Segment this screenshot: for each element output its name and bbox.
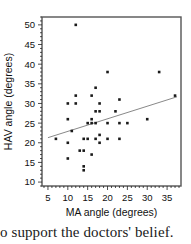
x-axis-tick-label: 10 — [63, 192, 74, 203]
data-point — [94, 110, 97, 113]
y-axis-tick-label: 45 — [24, 39, 35, 50]
data-point — [82, 149, 85, 152]
data-point — [86, 138, 89, 141]
y-axis-tick-label: 10 — [24, 176, 35, 187]
data-point — [94, 138, 97, 141]
data-point — [174, 94, 177, 97]
data-point — [74, 94, 77, 97]
x-axis-tick-label: 35 — [162, 192, 173, 203]
data-point — [90, 153, 93, 156]
y-axis-title: HAV angle (degrees) — [2, 53, 14, 150]
data-point — [118, 122, 121, 125]
data-point — [158, 71, 161, 74]
data-point — [90, 122, 93, 125]
data-point — [90, 118, 93, 121]
data-point — [67, 118, 70, 121]
data-point — [55, 138, 58, 141]
data-point — [82, 165, 85, 168]
x-axis-tick-label: 20 — [102, 192, 113, 203]
data-point — [74, 102, 77, 105]
data-point — [106, 138, 109, 141]
data-point — [82, 138, 85, 141]
data-point — [67, 102, 70, 105]
data-point — [94, 86, 97, 89]
data-point — [98, 141, 101, 144]
data-point — [106, 71, 109, 74]
data-point — [82, 169, 85, 172]
plot-frame — [42, 17, 181, 186]
x-axis-tick-label: 30 — [142, 192, 153, 203]
data-point — [94, 122, 97, 125]
scatter-plot-figure: 5101520253035101520253035404550MA angle … — [0, 0, 191, 244]
data-point — [90, 94, 93, 97]
data-point — [118, 98, 121, 101]
data-point — [67, 157, 70, 160]
data-point — [70, 130, 73, 133]
y-axis-tick-label: 30 — [24, 98, 35, 109]
chart-canvas: 5101520253035101520253035404550MA angle … — [0, 0, 191, 244]
y-axis-tick-label: 35 — [24, 78, 35, 89]
y-axis-tick-label: 15 — [24, 157, 35, 168]
y-axis-tick-label: 25 — [24, 118, 35, 129]
data-point — [126, 122, 129, 125]
data-point — [74, 24, 77, 27]
data-point — [98, 110, 101, 113]
data-point — [118, 138, 121, 141]
x-axis-tick-label: 15 — [82, 192, 93, 203]
data-point — [98, 102, 101, 105]
y-axis-tick-label: 40 — [24, 59, 35, 70]
data-point — [114, 110, 117, 113]
y-axis-tick-label: 20 — [24, 137, 35, 148]
x-axis-title: MA angle (degrees) — [66, 206, 158, 218]
y-axis-tick-label: 50 — [24, 19, 35, 30]
data-point — [106, 122, 109, 125]
x-axis-tick-label: 25 — [122, 192, 133, 203]
data-point — [67, 141, 70, 144]
data-point — [146, 118, 149, 121]
figure-caption: o support the doctors' belief. — [0, 224, 191, 241]
x-axis-tick-label: 5 — [45, 192, 50, 203]
data-point — [78, 149, 81, 152]
data-point — [98, 134, 101, 137]
data-point — [86, 122, 89, 125]
